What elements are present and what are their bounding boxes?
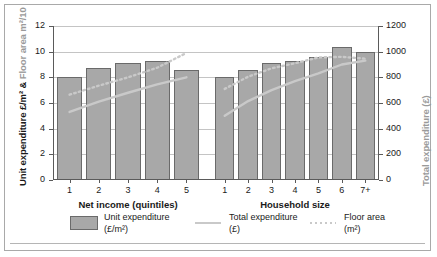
dotted-line-swatch [310, 222, 336, 224]
x-axis-tick-label: 1 [56, 185, 84, 195]
x-axis-tick-label: 3 [114, 185, 142, 195]
y-axis-left-tick-label: 4 [17, 123, 45, 133]
total-expenditure-line [225, 61, 366, 116]
y-axis-right-tick-label: 1200 [386, 20, 416, 30]
x-axis-tick-mark [295, 180, 296, 183]
x-axis-tick-mark [318, 180, 319, 183]
floor-area-line [225, 57, 366, 89]
legend-label-main: Floor area [344, 212, 385, 222]
legend-label: Unit expenditure(£/m²) [104, 212, 170, 235]
y-axis-right-tick-mark [379, 77, 383, 78]
y-axis-left-tick-label: 0 [17, 174, 45, 184]
floor-area-line [70, 53, 187, 95]
plot-area [53, 26, 379, 180]
y-axis-left-tick-label: 12 [17, 20, 45, 30]
x-axis-tick-label: 5 [172, 185, 200, 195]
x-axis-tick-mark [225, 180, 226, 183]
x-axis-tick-mark [128, 180, 129, 183]
y-axis-right-tick-label: 600 [386, 97, 416, 107]
x-axis-tick-mark [342, 180, 343, 183]
x-axis-tick-mark [365, 180, 366, 183]
legend-rule [10, 243, 425, 244]
y-axis-left-tick-mark [49, 103, 53, 104]
x-axis-tick-mark [186, 180, 187, 183]
legend-label-main: Total expenditure [229, 212, 298, 222]
solid-line-swatch [195, 222, 221, 224]
y-axis-right-tick-label: 0 [386, 174, 416, 184]
y-axis-left-tick-label: 8 [17, 71, 45, 81]
legend-label-unit: (£/m²) [104, 224, 170, 236]
y-axis-right-tick-mark [379, 52, 383, 53]
bar-swatch [70, 216, 98, 230]
y-axis-left-tick-label: 2 [17, 148, 45, 158]
legend: Unit expenditure(£/m²)Total expenditure(… [10, 213, 425, 243]
y-axis-right-tick-mark [379, 103, 383, 104]
y-axis-left-tick-mark [49, 129, 53, 130]
x-axis-line [53, 179, 379, 180]
y-axis-right-tick-label: 400 [386, 123, 416, 133]
x-axis-tick-label: 4 [143, 185, 171, 195]
y-axis-left-tick-mark [49, 77, 53, 78]
y-axis-left-tick-mark [49, 52, 53, 53]
y-axis-right-tick-mark [379, 129, 383, 130]
x-axis-tick-mark [70, 180, 71, 183]
y-axis-right-tick-mark [379, 154, 383, 155]
chart-figure: Unit expenditure £/m² & Floor area m²/10… [0, 0, 437, 257]
x-axis-tick-label: 7+ [351, 185, 379, 195]
x-axis-tick-mark [157, 180, 158, 183]
x-axis-tick-label: 2 [85, 185, 113, 195]
x-axis-group-title-net-income: Net income (quintiles) [48, 199, 208, 210]
y-axis-left-tick-label: 6 [17, 97, 45, 107]
legend-label-unit: (£) [229, 224, 298, 236]
y-axis-left-line [53, 26, 54, 180]
y-axis-right-tick-label: 200 [386, 148, 416, 158]
y-axis-left-tick-mark [49, 26, 53, 27]
legend-label: Total expenditure(£) [229, 212, 298, 235]
y-axis-right-tick-label: 1000 [386, 46, 416, 56]
lines-layer [53, 26, 379, 180]
y-axis-right-tick-mark [379, 26, 383, 27]
legend-label: Floor area(m²) [344, 212, 385, 235]
x-axis-tick-mark [272, 180, 273, 183]
x-axis-tick-mark [248, 180, 249, 183]
y-axis-right-tick-label: 800 [386, 71, 416, 81]
x-axis-tick-mark [99, 180, 100, 183]
x-axis-group-title-household-size: Household size [215, 199, 375, 210]
y-axis-right-title: Total expenditure (£) [420, 95, 431, 186]
legend-label-unit: (m²) [344, 224, 385, 236]
legend-label-main: Unit expenditure [104, 212, 170, 222]
y-axis-left-tick-mark [49, 154, 53, 155]
y-axis-left-tick-mark [49, 180, 53, 181]
y-axis-left-tick-label: 10 [17, 46, 45, 56]
total-expenditure-line [70, 77, 187, 112]
y-axis-right-tick-mark [379, 180, 383, 181]
